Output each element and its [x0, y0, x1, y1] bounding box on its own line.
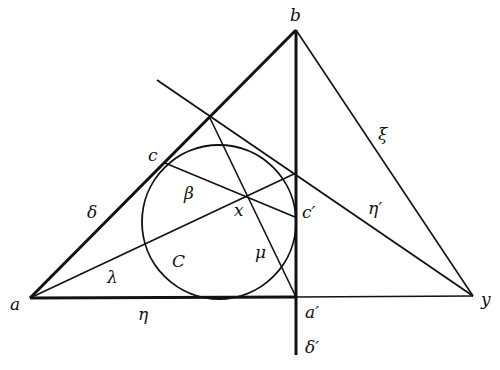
label-eta: η [138, 304, 149, 324]
line-eta-extension [296, 296, 473, 297]
label-xi: ξ [378, 124, 389, 144]
label-eta-prime: η′ [368, 198, 382, 218]
label-a-prime: a′ [305, 302, 319, 322]
circle-C [142, 145, 296, 299]
label-c: c [148, 145, 158, 165]
label-delta: δ [87, 202, 97, 222]
line-eta [30, 297, 296, 298]
label-c-prime: c′ [302, 202, 316, 222]
label-b: b [290, 5, 301, 25]
label-a: a [10, 294, 20, 314]
label-delta-prime: δ′ [305, 337, 319, 357]
label-circle-C: C [172, 251, 185, 271]
label-x: x [234, 200, 244, 220]
label-lambda: λ [106, 267, 118, 287]
label-mu: μ [255, 242, 266, 262]
incircle-diagram: a b y a′ c c′ x C δ δ′ η η′ ξ λ β μ [0, 0, 500, 370]
line-xi [296, 30, 473, 296]
line-eta-prime [157, 80, 473, 296]
label-beta: β [183, 183, 194, 203]
line-lambda [30, 173, 296, 298]
label-y: y [480, 289, 491, 309]
line-mu [209, 116, 296, 297]
